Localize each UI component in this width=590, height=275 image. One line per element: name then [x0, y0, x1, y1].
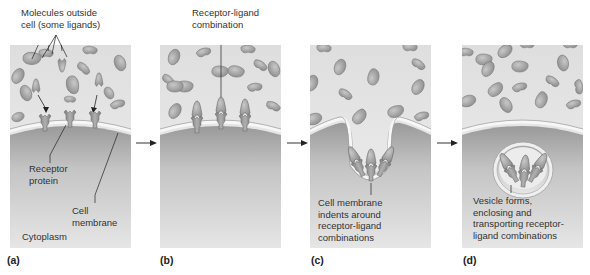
panel-label-d: (d) — [463, 254, 476, 266]
callout-line: Cell — [72, 205, 117, 217]
panel-label-b: (b) — [160, 254, 173, 266]
panel-label-c: (c) — [311, 254, 324, 266]
arrow-c-to-d-icon — [437, 138, 459, 148]
callout-line: Cell membrane — [318, 197, 382, 209]
callout-line: transporting receptor- — [473, 218, 564, 230]
callout-line: combinations — [318, 232, 382, 244]
callout-cytoplasm: Cytoplasm — [22, 231, 67, 243]
panel-b-illustration — [160, 45, 281, 248]
panel-a-illustration: Receptor protein Cell membrane Cytoplasm — [10, 45, 131, 248]
callout-line: Receptor — [29, 163, 68, 175]
callout-line: Receptor-ligand — [192, 7, 259, 19]
molecules-leader-lines — [5, 10, 55, 50]
callout-line: protein — [29, 175, 68, 187]
callout-receptor-ligand-combination: Receptor-ligand combination — [192, 7, 259, 30]
panel-label-a: (a) — [7, 254, 20, 266]
callout-line: receptor-ligand — [318, 220, 382, 232]
callout-line: Vesicle forms, — [473, 195, 564, 207]
arrow-b-to-c-icon — [287, 138, 309, 148]
panel-c-illustration: Cell membrane indents around receptor-li… — [310, 45, 431, 248]
arrow-a-to-b-icon — [136, 138, 158, 148]
callout-receptor-protein: Receptor protein — [29, 163, 68, 186]
callout-cell-membrane: Cell membrane — [72, 205, 117, 228]
panel-d-illustration: Vesicle forms, enclosing and transportin… — [462, 45, 583, 248]
callout-line: ligand combinations — [473, 230, 564, 242]
callout-line: membrane — [72, 217, 117, 229]
callout-line: indents around — [318, 209, 382, 221]
cell-membrane-diagram-b — [160, 45, 281, 248]
callout-line: combination — [192, 19, 259, 31]
callout-line: enclosing and — [473, 207, 564, 219]
callout-cell-membrane-indents: Cell membrane indents around receptor-li… — [318, 197, 382, 243]
callout-vesicle-forms: Vesicle forms, enclosing and transportin… — [473, 195, 564, 241]
